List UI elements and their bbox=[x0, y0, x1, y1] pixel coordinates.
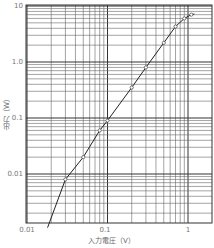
x-axis-title: 入力電圧（V） bbox=[88, 235, 135, 245]
data-point-marker bbox=[144, 66, 147, 69]
data-point-marker bbox=[174, 25, 177, 28]
data-point-marker bbox=[162, 41, 165, 44]
x-tick-1: 1 bbox=[176, 226, 200, 234]
x-tick-0-01: 0.01 bbox=[15, 226, 39, 234]
data-point-marker bbox=[130, 86, 133, 89]
data-point-marker bbox=[98, 129, 101, 132]
y-axis-title: 出力（W） bbox=[2, 95, 12, 130]
x-tick-0-1: 0.1 bbox=[93, 226, 117, 234]
data-point-marker bbox=[82, 156, 85, 159]
y-tick-10: 10 bbox=[3, 2, 23, 10]
data-point-marker bbox=[190, 13, 193, 16]
chart-plot bbox=[0, 0, 214, 248]
y-tick-1: 1.0 bbox=[3, 58, 23, 66]
grid-lines bbox=[26, 5, 212, 223]
y-tick-0-01: 0.01 bbox=[3, 170, 23, 178]
data-point-marker bbox=[106, 119, 109, 122]
data-point-marker bbox=[183, 17, 186, 20]
data-point-marker bbox=[64, 178, 67, 181]
